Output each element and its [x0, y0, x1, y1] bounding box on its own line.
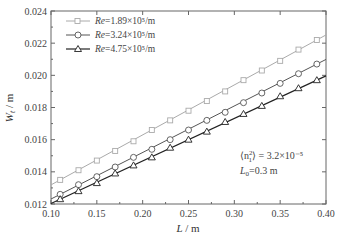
square-marker-icon: [76, 168, 81, 173]
y-tick-label: 0.016: [25, 134, 48, 145]
circle-marker-icon: [149, 146, 155, 152]
circle-marker-icon: [222, 109, 228, 115]
circle-marker-icon: [167, 137, 173, 143]
circle-marker-icon: [204, 117, 210, 123]
circle-marker-icon: [277, 80, 283, 86]
y-tick-label: 0.020: [25, 70, 48, 81]
x-tick-labels: 0.100.150.200.250.300.350.40: [42, 208, 335, 219]
square-marker-icon: [241, 78, 246, 83]
y-tick-labels: 0.0120.0140.0160.0180.0200.0220.024: [25, 6, 48, 210]
square-marker-icon: [168, 118, 173, 123]
square-marker-icon: [296, 47, 301, 52]
x-tick-label: 0.25: [180, 208, 198, 219]
x-tick-label: 0.30: [226, 208, 244, 219]
legend-label: Re=4.75×10⁵/m: [94, 44, 156, 54]
square-marker-icon: [113, 148, 118, 153]
x-tick-label: 0.35: [271, 208, 289, 219]
square-marker-icon: [186, 108, 191, 113]
legend: Re=1.89×10⁵/m Re=3.24×10⁵/m Re=4.75×10⁵/…: [66, 16, 156, 54]
square-marker-icon: [223, 89, 228, 94]
square-marker-icon: [131, 139, 136, 144]
square-marker-icon: [314, 37, 319, 42]
square-marker-icon: [278, 58, 283, 63]
circle-marker-icon: [131, 154, 137, 160]
circle-marker-icon: [241, 100, 247, 106]
plot-frame: [51, 11, 326, 204]
y-tick-label: 0.014: [25, 166, 48, 177]
circle-marker-icon: [75, 32, 81, 38]
circle-marker-icon: [314, 61, 320, 67]
x-tick-label: 0.15: [88, 208, 106, 219]
square-marker-icon: [259, 68, 264, 73]
x-tick-label: 0.10: [42, 208, 60, 219]
x-tick-label: 0.20: [134, 208, 152, 219]
y-tick-label: 0.018: [25, 102, 48, 113]
x-axis-title: L / m: [175, 222, 200, 234]
square-marker-icon: [75, 19, 80, 24]
y-axis-title: Wt / m: [3, 93, 17, 122]
y-tick-label: 0.012: [25, 199, 48, 210]
circle-marker-icon: [296, 71, 302, 77]
circle-marker-icon: [259, 90, 265, 96]
square-marker-icon: [149, 128, 154, 133]
y-tick-label: 0.024: [25, 6, 48, 17]
square-marker-icon: [94, 158, 99, 163]
legend-label: Re=1.89×10⁵/m: [94, 16, 156, 26]
chart: 0.100.150.200.250.300.350.40 0.0120.0140…: [0, 0, 341, 240]
y-tick-label: 0.022: [25, 38, 48, 49]
circle-marker-icon: [186, 127, 192, 133]
square-marker-icon: [58, 177, 63, 182]
legend-label: Re=3.24×10⁵/m: [94, 30, 156, 40]
square-marker-icon: [204, 99, 209, 104]
x-tick-label: 0.40: [317, 208, 335, 219]
